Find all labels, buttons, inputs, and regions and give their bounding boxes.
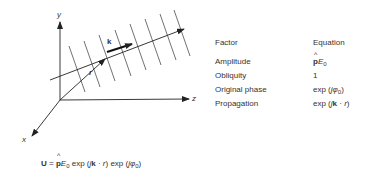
y-axis-label: y xyxy=(57,10,61,19)
header-factor: Factor xyxy=(215,36,238,49)
wavefront-lines xyxy=(69,10,190,92)
r-vector xyxy=(60,59,105,100)
x-axis-label: x xyxy=(22,135,26,144)
header-equation: Equation xyxy=(313,36,345,49)
row-original-phase-factor: Original phase xyxy=(215,83,267,96)
z-axis-label: z xyxy=(192,94,196,103)
z-axis xyxy=(60,99,189,100)
total-field-equation: U = pE0 exp (jk · r) exp (jφ0) xyxy=(41,159,141,169)
row-propagation-factor: Propagation xyxy=(215,97,258,110)
row-amplitude-factor: Amplitude xyxy=(215,55,251,68)
row-obliquity-equation: 1 xyxy=(313,69,317,82)
k-vector-label: k xyxy=(107,37,111,46)
r-vector-label: r xyxy=(89,68,92,77)
row-propagation-equation: exp (jk · r) xyxy=(313,97,349,110)
x-axis xyxy=(32,100,60,136)
row-obliquity-factor: Obliquity xyxy=(215,69,246,82)
